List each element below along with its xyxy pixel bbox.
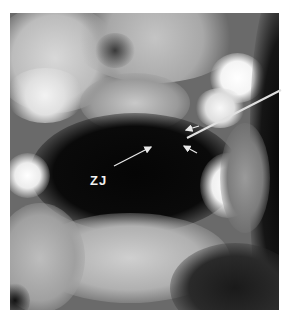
upper-arrow (186, 126, 199, 130)
pointer-line (187, 90, 281, 138)
zj-arrow (114, 147, 151, 166)
lower-arrow (184, 146, 197, 153)
annotation-arrows (0, 0, 288, 317)
